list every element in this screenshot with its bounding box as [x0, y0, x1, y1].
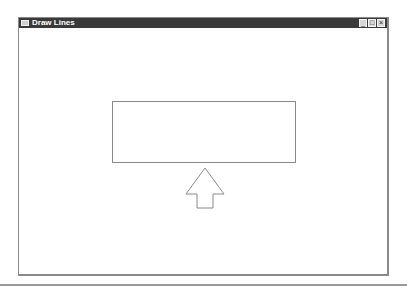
window-controls: _ □ ×: [359, 19, 385, 27]
draw-lines-window: Draw Lines _ □ ×: [18, 17, 389, 276]
minimize-button[interactable]: _: [359, 19, 367, 27]
close-button[interactable]: ×: [377, 19, 385, 27]
title-bar[interactable]: Draw Lines _ □ ×: [19, 18, 387, 28]
separator-line: [0, 284, 407, 286]
drawn-rectangle: [112, 101, 296, 163]
window-title: Draw Lines: [32, 18, 75, 28]
maximize-button[interactable]: □: [368, 19, 376, 27]
up-arrow-icon: [185, 167, 227, 209]
app-icon[interactable]: [21, 20, 29, 26]
drawing-canvas[interactable]: [19, 28, 387, 274]
